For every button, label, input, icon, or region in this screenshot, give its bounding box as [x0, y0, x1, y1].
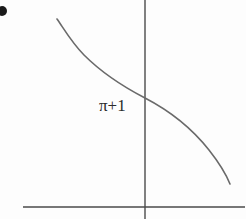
list-bullet-icon [0, 6, 7, 16]
graph-figure: π+1 [0, 0, 246, 219]
y-intercept-label: π+1 [99, 96, 126, 115]
function-curve [57, 19, 230, 184]
